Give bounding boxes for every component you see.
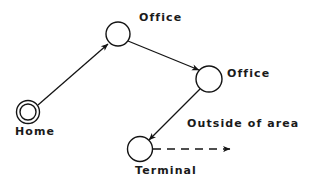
node-office-2 [196, 66, 222, 92]
edge-office-1-to-office-2 [128, 41, 199, 70]
edge-label-outside-of-area: Outside of area [187, 118, 299, 129]
home-inner-circle [20, 104, 36, 120]
node-office-1 [106, 22, 130, 46]
edge-home-to-office-1 [38, 44, 108, 105]
diagram-canvas: Office Office Home Terminal Outside of a… [0, 0, 311, 187]
node-home [17, 101, 40, 124]
node-terminal [128, 137, 153, 162]
diagram-graphics [0, 0, 311, 187]
node-label-office-2: Office [227, 68, 270, 79]
node-label-home: Home [15, 126, 55, 137]
edge-office-2-to-terminal [149, 89, 200, 140]
node-label-office-1: Office [139, 12, 182, 23]
node-label-terminal: Terminal [135, 165, 197, 176]
